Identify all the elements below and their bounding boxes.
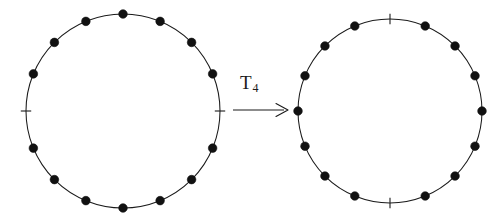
arrow-label-subscript: 4 [252, 81, 259, 95]
circle-dot-marker [156, 196, 165, 205]
circle-dot-marker [301, 71, 310, 80]
circle-dot-marker [421, 22, 430, 31]
circle-dot-marker [350, 22, 359, 31]
circle-dot-marker [29, 70, 38, 79]
circle-dot-marker [478, 107, 487, 116]
transformation-figure: T4 [0, 0, 503, 216]
circle-dot-marker [50, 38, 59, 47]
circle-dot-marker [451, 42, 460, 51]
result-circle [260, 0, 503, 216]
arrow-label-main: T [240, 72, 252, 93]
circle-dot-marker [156, 17, 165, 26]
circle-dot-marker [421, 192, 430, 201]
circle-dot-marker [50, 175, 59, 184]
circle-dot-marker [119, 10, 128, 19]
source-circle [0, 0, 250, 216]
circle-dot-marker [471, 142, 480, 151]
circle-dot-marker [82, 196, 91, 205]
circle-dot-marker [187, 175, 196, 184]
circle-dot-marker [82, 17, 91, 26]
circle-dot-marker [321, 172, 330, 181]
circle-dot-marker [208, 70, 217, 79]
circle-dot-marker [451, 172, 460, 181]
circle-dot-marker [471, 71, 480, 80]
circle-dot-marker [208, 144, 217, 153]
circle-dot-marker [187, 38, 196, 47]
circle-dot-marker [301, 142, 310, 151]
circle-dot-marker [350, 192, 359, 201]
circle-dot-marker [29, 144, 38, 153]
circle-dot-marker [294, 107, 303, 116]
circle-dot-marker [119, 204, 128, 213]
arrow-label: T4 [240, 72, 259, 96]
circle-dot-marker [321, 42, 330, 51]
